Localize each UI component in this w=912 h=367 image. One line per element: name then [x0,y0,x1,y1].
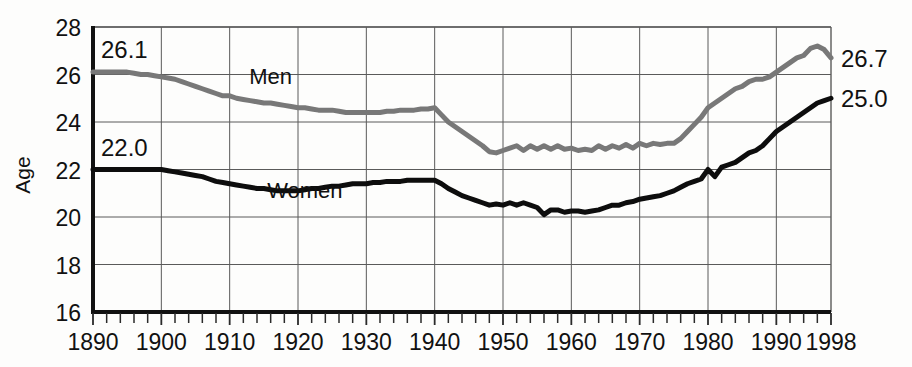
men-start-value: 26.1 [101,36,148,63]
y-tick-label: 26 [55,63,81,89]
x-tick-label: 1920 [272,329,323,355]
x-tick-label: 1910 [204,329,255,355]
women-series-label: Women [267,178,342,203]
x-tick-label: 1940 [409,329,460,355]
y-tick-label: 24 [55,110,81,136]
y-tick-label: 16 [55,300,81,326]
y-axis-title: Age [11,156,34,193]
men-series-label: Men [249,64,292,89]
x-tick-label: 1960 [546,329,597,355]
y-tick-label: 28 [55,15,81,41]
x-tick-label: 1998 [805,329,856,355]
x-tick-label: 1970 [614,329,665,355]
x-tick-label: 1990 [751,329,802,355]
x-tick-label: 1980 [682,329,733,355]
women-end-value: 25.0 [841,85,888,112]
chart-svg: 16182022242628 1890190019101920193019401… [0,0,912,367]
y-tick-label: 22 [55,158,81,184]
y-tick-label: 20 [55,205,81,231]
x-tick-label: 1950 [477,329,528,355]
x-tick-label: 1930 [341,329,392,355]
men-end-value: 26.7 [841,45,888,72]
line-chart: 16182022242628 1890190019101920193019401… [0,0,912,367]
women-start-value: 22.0 [101,134,148,161]
x-tick-label: 1900 [136,329,187,355]
x-tick-label: 1890 [67,329,118,355]
y-tick-label: 18 [55,253,81,279]
